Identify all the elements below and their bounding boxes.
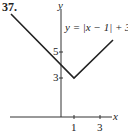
x-axis-label: x [113,110,118,122]
equation-label: y = |x − 1| + 3 [65,21,128,33]
x-tick-label-1: 1 [71,121,77,133]
y-tick-label-3: 3 [53,71,59,83]
y-axis-label: y [58,0,63,11]
x-tick-label-3: 3 [97,121,103,133]
y-tick-label-5: 5 [53,45,59,57]
